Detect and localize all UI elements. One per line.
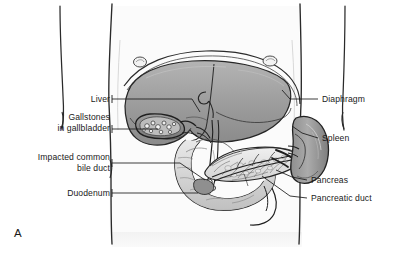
label-gallstones-in-gallbladder: Gallstones in gallbladder xyxy=(22,112,110,133)
label-pancreatic-duct: Pancreatic duct xyxy=(311,193,395,204)
panel-letter: A xyxy=(14,227,22,239)
label-pancreas: Pancreas xyxy=(311,175,393,186)
label-spleen: Spleen xyxy=(322,133,394,144)
label-impacted-common-bile-duct: Impacted common bile duct xyxy=(8,152,110,173)
label-duodenum: Duodenum xyxy=(22,188,110,199)
label-liver: Liver xyxy=(22,94,110,105)
label-diaphragm: Diaphragm xyxy=(322,94,394,105)
anatomy-figure: Liver Gallstones in gallbladder Impacted… xyxy=(0,0,396,258)
